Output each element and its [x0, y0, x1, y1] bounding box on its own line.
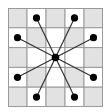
target-dot-icon	[90, 74, 97, 81]
target-dot-icon	[71, 14, 78, 21]
board-svg	[8, 8, 103, 107]
board-cell	[8, 87, 27, 107]
board-cell	[46, 8, 65, 28]
board-cell	[84, 87, 103, 107]
target-dot-icon	[33, 94, 40, 101]
target-dot-icon	[14, 34, 21, 41]
board-cell	[8, 8, 27, 28]
knight-center-dot-icon	[52, 54, 60, 62]
board-cell	[84, 48, 103, 68]
target-dot-icon	[33, 14, 40, 21]
board-cell	[46, 87, 65, 107]
target-dot-icon	[14, 74, 21, 81]
target-dot-icon	[90, 34, 97, 41]
board-cell	[84, 8, 103, 28]
knight-move-diagram	[8, 8, 103, 107]
target-dot-icon	[71, 94, 78, 101]
board-cell	[8, 48, 27, 68]
